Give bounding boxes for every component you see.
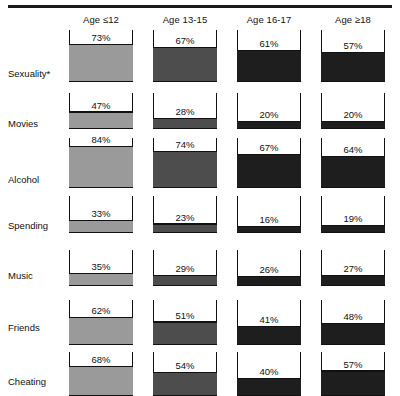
tank-floor bbox=[237, 81, 301, 82]
tank-cell: 28% bbox=[153, 93, 217, 129]
tank-cell: 61% bbox=[237, 30, 301, 82]
tank-value-label: 67% bbox=[153, 35, 217, 46]
tank-cell: 27% bbox=[321, 250, 385, 286]
tank-floor bbox=[69, 128, 133, 129]
tank-cell: 51% bbox=[153, 300, 217, 345]
tank-fill-line bbox=[69, 111, 133, 112]
tank-fill-line bbox=[69, 146, 133, 147]
tank-cell: 16% bbox=[237, 196, 301, 233]
tank-cell: 35% bbox=[69, 250, 133, 286]
tank-fill bbox=[69, 146, 133, 187]
tank-floor bbox=[153, 187, 217, 188]
tank-fill-line bbox=[321, 323, 385, 324]
tank-value-label: 57% bbox=[321, 40, 385, 51]
tank-value-label: 61% bbox=[237, 38, 301, 49]
tank-fill bbox=[237, 154, 301, 187]
tank-floor bbox=[321, 81, 385, 82]
tank-fill bbox=[237, 326, 301, 344]
tank-value-label: 47% bbox=[69, 100, 133, 111]
tank-floor bbox=[153, 81, 217, 82]
tank-cell: 29% bbox=[153, 250, 217, 286]
tank-cell: 57% bbox=[321, 30, 385, 82]
tank-cell: 54% bbox=[153, 352, 217, 396]
tank-fill-line bbox=[321, 225, 385, 226]
tank-fill-line bbox=[153, 47, 217, 48]
tank-fill-line bbox=[237, 121, 301, 122]
tank-fill-line bbox=[69, 44, 133, 45]
tank-fill-line bbox=[237, 154, 301, 155]
tank-fill bbox=[69, 111, 133, 127]
tank-fill-line bbox=[69, 273, 133, 274]
tank-fill-line bbox=[321, 156, 385, 157]
tank-fill bbox=[237, 226, 301, 232]
tank-fill-line bbox=[153, 118, 217, 119]
tank-cell: 62% bbox=[69, 300, 133, 345]
tank-cell: 19% bbox=[321, 196, 385, 233]
tank-floor bbox=[69, 285, 133, 286]
tank-fill-line bbox=[69, 220, 133, 221]
tank-fill-line bbox=[69, 366, 133, 367]
tank-fill bbox=[153, 47, 217, 81]
top-rule bbox=[8, 5, 392, 8]
tank-floor bbox=[321, 344, 385, 345]
tank-cell: 73% bbox=[69, 30, 133, 82]
tank-fill bbox=[321, 52, 385, 81]
tank-value-label: 26% bbox=[237, 264, 301, 275]
tank-value-label: 54% bbox=[153, 360, 217, 371]
row-label-cheating: Cheating bbox=[8, 376, 46, 387]
tank-floor bbox=[153, 285, 217, 286]
tank-fill bbox=[69, 366, 133, 395]
tank-fill bbox=[153, 321, 217, 343]
tank-fill bbox=[153, 151, 217, 187]
tank-fill bbox=[69, 273, 133, 285]
tank-value-label: 23% bbox=[153, 212, 217, 223]
tank-cell: 67% bbox=[237, 138, 301, 188]
tank-fill bbox=[153, 118, 217, 128]
tank-fill-line bbox=[153, 151, 217, 152]
tank-value-label: 68% bbox=[69, 354, 133, 365]
tank-value-label: 35% bbox=[69, 261, 133, 272]
tank-fill bbox=[153, 275, 217, 285]
tank-floor bbox=[321, 128, 385, 129]
tank-fill bbox=[321, 275, 385, 284]
tank-floor bbox=[321, 232, 385, 233]
tank-fill-line bbox=[153, 223, 217, 224]
row-label-friends: Friends bbox=[8, 322, 40, 333]
tank-fill-line bbox=[153, 275, 217, 276]
tank-floor bbox=[237, 285, 301, 286]
row-label-spending: Spending bbox=[8, 220, 48, 231]
tank-floor bbox=[153, 232, 217, 233]
tank-cell: 20% bbox=[321, 93, 385, 129]
tank-floor bbox=[237, 128, 301, 129]
tank-value-label: 40% bbox=[237, 366, 301, 377]
tank-cell: 41% bbox=[237, 300, 301, 345]
tank-fill bbox=[321, 323, 385, 344]
tank-fill-line bbox=[153, 372, 217, 373]
row-label-alcohol: Alcohol bbox=[8, 174, 39, 185]
tank-fill bbox=[321, 156, 385, 187]
tank-fill-line bbox=[237, 226, 301, 227]
tank-fill-line bbox=[69, 317, 133, 318]
tank-value-label: 41% bbox=[237, 314, 301, 325]
tank-value-label: 29% bbox=[153, 263, 217, 274]
column-header-3: Age 16-17 bbox=[237, 14, 301, 25]
tank-value-label: 57% bbox=[321, 359, 385, 370]
tank-cell: 84% bbox=[69, 138, 133, 188]
tank-value-label: 64% bbox=[321, 144, 385, 155]
tank-floor bbox=[69, 344, 133, 345]
tank-floor bbox=[153, 128, 217, 129]
tank-floor bbox=[237, 187, 301, 188]
tank-cell: 33% bbox=[69, 196, 133, 233]
tank-value-label: 74% bbox=[153, 139, 217, 150]
tank-value-label: 48% bbox=[321, 311, 385, 322]
tank-fill bbox=[237, 378, 301, 395]
tank-value-label: 67% bbox=[237, 142, 301, 153]
tank-fill bbox=[237, 276, 301, 285]
tank-floor bbox=[321, 187, 385, 188]
tank-value-label: 84% bbox=[69, 134, 133, 145]
tank-fill-line bbox=[237, 276, 301, 277]
tank-value-label: 62% bbox=[69, 305, 133, 316]
tank-fill bbox=[321, 225, 385, 232]
tank-floor bbox=[321, 285, 385, 286]
column-header-4: Age ≥18 bbox=[321, 14, 385, 25]
